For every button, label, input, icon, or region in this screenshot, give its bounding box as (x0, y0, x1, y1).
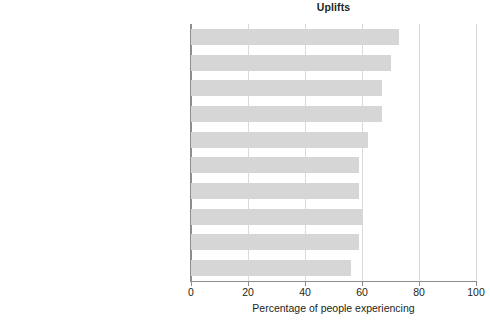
chart-figure: Uplifts 020406080100 Relating well with … (0, 0, 490, 324)
x-axis-title: Percentage of people experiencing (191, 302, 476, 314)
x-axis-line (190, 281, 477, 282)
x-tick-label: 40 (299, 286, 311, 298)
bar (191, 29, 399, 45)
bar (191, 209, 362, 225)
bar (191, 183, 359, 199)
x-tick-label: 100 (467, 286, 485, 298)
bar (191, 80, 382, 96)
x-tick-label: 20 (242, 286, 254, 298)
bar (191, 260, 351, 276)
bar (191, 106, 382, 122)
bar (191, 157, 359, 173)
x-tick-label: 60 (356, 286, 368, 298)
gridline (419, 24, 420, 281)
chart-title: Uplifts (191, 1, 476, 13)
plot-area (191, 24, 476, 281)
bar (191, 234, 359, 250)
bar (191, 132, 368, 148)
x-tick-label: 0 (188, 286, 194, 298)
bar (191, 55, 391, 71)
gridline (476, 24, 477, 281)
x-tick-label: 80 (413, 286, 425, 298)
